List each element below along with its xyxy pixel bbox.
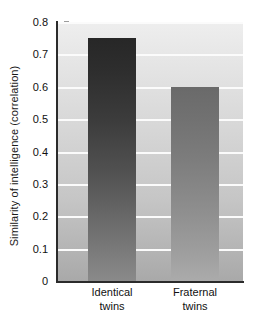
y-tick-label-0.2: 0.2 xyxy=(33,210,48,222)
x-label-fraternal-line2: twins xyxy=(145,300,245,314)
plot-area xyxy=(57,22,243,281)
y-tick-label-0.5: 0.5 xyxy=(33,113,48,125)
y-tick-label-0.8: 0.8 xyxy=(33,16,48,28)
twin-study-bar-chart: Similarity of intelligence (correlation)… xyxy=(0,0,260,316)
x-label-fraternal-line1: Fraternal xyxy=(145,286,245,300)
y-axis-line xyxy=(56,21,58,282)
y-tick-label-0.3: 0.3 xyxy=(33,178,48,190)
bars-layer xyxy=(57,22,243,281)
y-axis-tick-labels: 0.8 0.7 0.6 0.5 0.4 0.3 0.2 0.1 0 xyxy=(16,22,52,281)
y-tick-label-0: 0 xyxy=(42,275,48,287)
x-label-fraternal-twins: Fraternal twins xyxy=(145,286,245,313)
bar-identical-twins xyxy=(88,38,136,281)
y-tick-label-0.4: 0.4 xyxy=(33,146,48,158)
x-axis-line xyxy=(56,281,244,283)
bar-fraternal-twins xyxy=(171,87,219,281)
y-tick-label-0.7: 0.7 xyxy=(33,48,48,60)
y-tick-label-0.1: 0.1 xyxy=(33,243,48,255)
x-axis-category-labels: Identical twins Fraternal twins xyxy=(57,286,243,316)
y-tick-label-0.6: 0.6 xyxy=(33,81,48,93)
